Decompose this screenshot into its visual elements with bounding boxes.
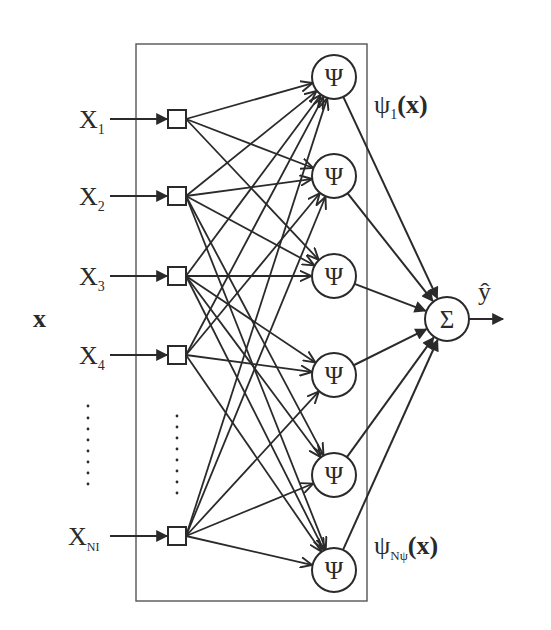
input-layer: X1X2X3X4XNI	[68, 105, 186, 554]
sigma-symbol: Σ	[440, 306, 455, 333]
connection-edge	[186, 95, 320, 276]
connection-edge	[186, 536, 312, 565]
psi-symbol: Ψ	[325, 163, 344, 190]
psi-symbol: Ψ	[325, 462, 344, 489]
input-label: X2	[79, 182, 105, 214]
wavelet-output-edge	[343, 97, 437, 298]
node-ellipsis	[176, 415, 179, 495]
wavelet-output-edge	[354, 329, 427, 365]
psi-symbol: Ψ	[325, 64, 344, 91]
connection-edge	[186, 355, 321, 551]
connection-edge	[186, 97, 323, 355]
connection-edge	[186, 119, 313, 168]
input-label: XNI	[68, 522, 99, 554]
input-square	[168, 187, 186, 205]
connection-edge	[186, 392, 318, 536]
wavelet-node-psi3: Ψ	[312, 254, 356, 298]
wavelet-output-edge	[348, 193, 433, 301]
connection-edge	[186, 83, 312, 119]
psi-symbol: Ψ	[325, 362, 344, 389]
psi-symbol: Ψ	[325, 263, 344, 290]
summation-node: Σŷ	[425, 277, 503, 341]
input-label: X4	[79, 341, 105, 373]
input-node-xn: XNI	[68, 522, 186, 554]
input-label: X1	[79, 105, 105, 137]
wavelet-output-edge	[343, 340, 438, 550]
input-vector-label: x	[33, 304, 46, 333]
wavelet-node-psi1: Ψ	[312, 55, 356, 99]
wavelet-node-psi6: Ψ	[312, 548, 356, 592]
wavelet-network-diagram: X1X2X3X4XNI ΨΨΨΨΨΨ Σŷ x ψ1(x) ψNψ(x)	[0, 0, 551, 630]
diagram-canvas: X1X2X3X4XNI ΨΨΨΨΨΨ Σŷ x ψ1(x) ψNψ(x)	[0, 0, 551, 630]
input-ellipsis	[87, 405, 90, 486]
wavelet-output-edge	[355, 284, 426, 311]
hidden-layer: ΨΨΨΨΨΨ	[312, 55, 356, 592]
output-label: ŷ	[478, 277, 491, 306]
input-node-x3: X3	[79, 262, 186, 294]
psi-n-label: ψNψ(x)	[374, 531, 438, 563]
input-node-x2: X2	[79, 182, 186, 214]
wavelet-output-edge	[347, 338, 434, 458]
psi-symbol: Ψ	[325, 557, 344, 584]
connection-edge	[186, 276, 320, 457]
input-square	[168, 527, 186, 545]
input-square	[168, 267, 186, 285]
input-square	[168, 346, 186, 364]
wavelet-node-psi4: Ψ	[312, 353, 356, 397]
input-node-x4: X4	[79, 341, 186, 373]
input-square	[168, 110, 186, 128]
input-label: X3	[79, 262, 105, 294]
input-node-x1: X1	[79, 105, 186, 137]
wavelet-node-psi2: Ψ	[312, 154, 356, 198]
psi-1-label: ψ1(x)	[374, 90, 428, 122]
connections	[186, 83, 327, 565]
connection-edge	[186, 355, 311, 372]
wavelet-node-psi5: Ψ	[312, 453, 356, 497]
